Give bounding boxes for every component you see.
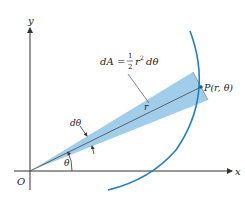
- formula-den: 2: [128, 63, 132, 71]
- dtheta-arrow-bottom: [92, 146, 94, 154]
- x-axis-label: x: [235, 166, 241, 177]
- point-p-dot: [199, 85, 203, 89]
- formula-dtheta: dθ: [146, 56, 158, 67]
- formula-lhs: dA: [100, 56, 114, 67]
- polar-area-diagram: y x O dA = 1 2 r 2 dθ P(r, θ) r dθ θ: [0, 0, 245, 198]
- radius-label: r: [144, 102, 149, 112]
- origin-label: O: [17, 176, 25, 187]
- dtheta-label: dθ: [70, 118, 82, 128]
- radius-line: [30, 87, 201, 171]
- area-wedge: [30, 72, 208, 171]
- formula-num: 1: [128, 52, 132, 60]
- formula-eq: =: [117, 56, 125, 67]
- theta-label: θ: [64, 158, 70, 168]
- formula-leader: [128, 74, 149, 103]
- formula-exp: 2: [140, 54, 144, 61]
- point-p-label: P(r, θ): [203, 82, 233, 93]
- y-axis-label: y: [27, 15, 34, 26]
